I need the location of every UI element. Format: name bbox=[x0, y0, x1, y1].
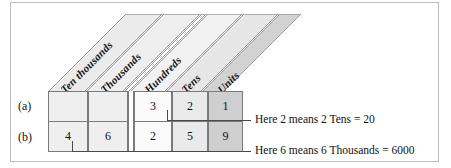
cell-a-units: 1 bbox=[208, 91, 243, 122]
cell-b-units: 9 bbox=[208, 121, 243, 152]
column-header-deck: Ten thousands Thousands Hundreds Tens Un… bbox=[42, 14, 302, 94]
cell-b-thousands: 6 bbox=[88, 121, 128, 152]
row-label-b: (b) bbox=[18, 130, 32, 145]
place-value-table: 3 2 1 4 6 2 5 9 bbox=[48, 91, 220, 152]
leader-tens-horizontal bbox=[167, 120, 251, 121]
cell-a-ten-thousands bbox=[48, 91, 88, 122]
cell-b-hundreds: 2 bbox=[134, 121, 172, 152]
cell-a-tens: 2 bbox=[172, 91, 208, 122]
place-value-chart-figure: Ten thousands Thousands Hundreds Tens Un… bbox=[0, 0, 451, 168]
cell-a-thousands bbox=[88, 91, 128, 122]
deck-svg bbox=[42, 14, 302, 94]
callout-thousands-text: Here 6 means 6 Thousands = 6000 bbox=[255, 144, 415, 156]
leader-thousands-horizontal bbox=[72, 151, 251, 152]
row-label-a: (a) bbox=[18, 99, 31, 114]
cell-b-tens: 5 bbox=[172, 121, 208, 152]
callout-tens-text: Here 2 means 2 Tens = 20 bbox=[255, 113, 375, 125]
cell-b-ten-thousands: 4 bbox=[48, 121, 88, 152]
